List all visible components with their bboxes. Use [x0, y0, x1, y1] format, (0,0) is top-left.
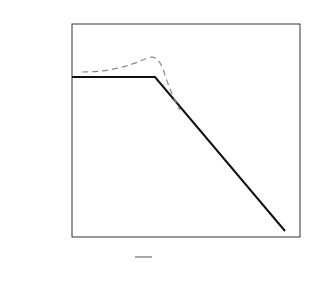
asymptote-line — [72, 77, 285, 231]
bode-plot — [0, 0, 320, 291]
actual-response-curve — [82, 57, 180, 110]
annotations — [93, 33, 193, 67]
